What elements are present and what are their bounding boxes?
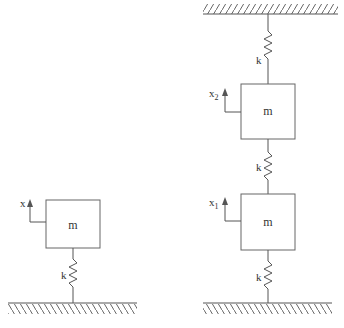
- upper-mass-label: m: [263, 104, 273, 118]
- upper-displacement-arrow-icon: [222, 88, 241, 112]
- ground-icon: [203, 303, 332, 314]
- mass-spring-diagram: m x k k m: [0, 0, 344, 328]
- lower-displacement-label: x1: [209, 196, 219, 211]
- middle-spring-label: k: [256, 161, 262, 173]
- lower-displacement-arrow-icon: [222, 197, 241, 221]
- upper-displacement-label: x2: [209, 87, 219, 102]
- ground-spring-label: k: [256, 271, 262, 283]
- ceiling-spring-label: k: [256, 54, 262, 66]
- ceiling-spring-icon: [264, 14, 272, 84]
- displacement-arrow-icon: [27, 199, 46, 222]
- ground-spring-icon: [264, 250, 272, 303]
- displacement-label: x: [20, 197, 26, 209]
- lower-mass-label: m: [263, 215, 273, 229]
- mass-label: m: [68, 218, 78, 232]
- middle-spring-icon: [264, 139, 272, 194]
- spring-label: k: [61, 269, 67, 281]
- single-dof-system: m x k: [8, 197, 137, 314]
- spring-icon: [69, 248, 77, 303]
- ceiling-icon: [203, 4, 338, 14]
- two-dof-system: k m x2 k m x1 k: [203, 4, 338, 314]
- ground-icon: [8, 303, 137, 314]
